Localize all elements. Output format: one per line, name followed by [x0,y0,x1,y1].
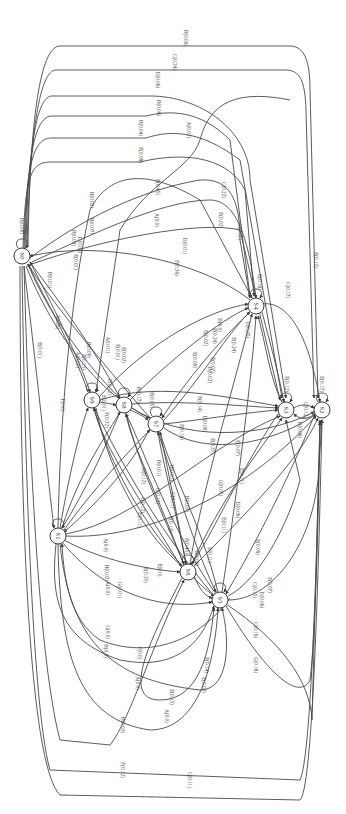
state-node-s3: S3 [278,402,294,418]
state-node-s0: S0 [14,248,30,264]
edge-label: E(0.01) [100,395,107,411]
node-label: S1 [55,533,62,540]
edge-label: E(0.07) [234,440,241,456]
edge-label: B(0.0) [102,644,109,658]
edge-label: E(0.02) [202,330,209,346]
edge-label: A(0.0) [134,676,141,690]
edge-label: G(0.18) [252,657,259,674]
edge-label: E(0.0) [156,563,163,576]
state-node-s4: S4 [248,298,264,314]
state-diagram: B(0.06)C(0.24)D(0.06)B(0.06)B(0.04)A(0.0… [0,0,346,814]
edge-label: E(0.07) [266,577,273,593]
edge [162,312,250,418]
edge-label: D(0.03) [76,237,83,254]
edge-label: E(0.01) [72,254,79,270]
edge-label: A(0.0) [102,538,109,552]
edge [164,410,278,424]
edge-label: H(0.01) [168,465,175,482]
edge-label: E(0.12) [283,376,290,392]
edge [94,408,214,596]
edge-label: A(0.01) [185,122,192,139]
state-node-s9: S9 [84,392,100,408]
node-label: S6 [185,569,192,577]
edge-label: H(0.02) [103,565,110,582]
node-label: S2 [319,407,326,414]
state-node-s1: S1 [50,528,66,544]
edge [24,133,282,398]
edge-label: C(0.22) [220,182,227,198]
edge [214,583,225,592]
edge-label: C(0.16) [252,622,259,638]
edge-label: B(0.06) [182,30,189,46]
state-node-s2: S2 [314,402,330,418]
edge-label: F(0.0) [59,399,66,412]
edge-label: B(0.02) [206,367,213,383]
state-node-s8: S8 [116,397,132,413]
edge-label: D(0.09) [201,416,208,433]
edge-label: E(0.24) [230,337,237,353]
node-label: S8 [121,402,128,409]
edge-label: F(0.12) [106,379,113,395]
edge-label: E(0.17) [312,252,319,268]
edges [16,46,327,800]
edge-label: E(0.16) [256,274,263,290]
edge-label: B(0.17) [135,387,142,403]
edge-label: D(0.06) [234,502,241,519]
edge-label: E(0.05) [148,392,155,408]
edge-label: C(0.11) [186,772,193,788]
edge-label: H(0.07) [88,218,95,235]
edge-label: A(0.07) [74,352,81,369]
edge-label: G(0.05) [217,480,224,497]
edge-label: C(0.17) [284,282,291,298]
edge-label: E(0.11) [206,547,213,563]
edge-label: E(0.06) [193,550,200,566]
edge-label: C(0.15) [251,582,258,598]
edge-label: E(0.09) [191,352,198,368]
edge-label: E(0.35) [142,567,149,583]
edge-label: E(0.17) [318,376,325,392]
edge-label: F(0.36) [173,260,180,276]
edge-label: D(0.06) [296,422,303,439]
node-label: S5 [217,597,224,604]
edge-label: D(0.05) [244,322,251,339]
edge-label: J(0.26) [54,315,61,330]
edge-label: B(0.04) [137,120,144,136]
edge-label: D(0.06) [258,592,265,609]
node-label: S3 [283,407,290,414]
edge-label: E(0.02) [217,212,224,228]
edge-label: C(0.24) [171,54,178,70]
edge-label: E(0.11) [136,512,143,528]
edge [150,407,161,416]
edge-label: E(0.45) [154,179,161,195]
edge-label: E(0.45) [183,538,190,554]
edge-label: E(0.17) [139,497,146,513]
edge-label: E(0.24) [211,328,218,344]
edge-label: E(0.02) [120,347,127,363]
state-node-s5: S5 [212,592,228,608]
state-node-s7: S7 [148,416,164,432]
edge [30,250,250,300]
edge-label: E(0.12) [167,516,174,532]
edge-label: B(0.02) [70,230,77,246]
edge [30,180,250,298]
edge-label: B(0.01) [155,460,162,476]
edge-label: E(0.11) [220,517,227,533]
edge [190,314,252,564]
edge [25,113,250,296]
edge-label: E(0.15) [80,354,87,370]
edge-label: B(0.09) [85,342,92,358]
edge-label: G(0.12) [154,488,161,505]
edge-label: B(0.01) [46,272,53,288]
edge-label: G(0.0) [104,625,111,639]
edge-label: C(0.12) [302,402,309,418]
node-label: S9 [89,397,96,404]
state-node-s6: S6 [180,564,196,580]
edge-label: A(0.0) [153,213,160,227]
edge-label: E(0.15) [168,689,175,705]
edge-label: F(0.32) [103,412,110,428]
edge-label: H(0.02) [88,192,95,209]
edge-label: B(0.0) [216,318,223,332]
edge-label: F(0.12) [119,762,126,778]
edge-label: B(0.03) [119,717,126,733]
edge [62,544,230,648]
